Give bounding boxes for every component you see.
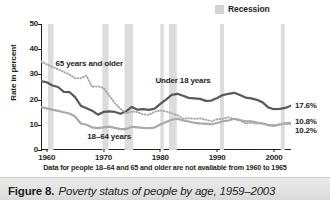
y-tickmark-20: [38, 100, 42, 101]
y-tick-10: 10: [18, 120, 38, 129]
series-lines: [41, 24, 291, 150]
figure-poverty-status-by-age: Recession Rate in percent 01020304050 19…: [0, 0, 330, 200]
y-tick-20: 20: [18, 95, 38, 104]
recession-band: [220, 24, 224, 150]
recession-band: [169, 24, 177, 150]
x-tickmark-1980: [160, 149, 161, 152]
series-line-2: [41, 107, 291, 129]
y-tickmark-0: [38, 150, 42, 151]
x-tickmark-1960: [46, 149, 47, 152]
annotation-2: Under 18 years: [155, 76, 210, 85]
caption-bar: Figure 8. Poverty status of people by ag…: [0, 177, 330, 200]
recession-swatch-icon: [215, 5, 224, 14]
legend-label-recession: Recession: [228, 4, 270, 14]
recession-band: [281, 24, 285, 150]
recession-band: [125, 24, 134, 150]
y-tickmark-50: [38, 24, 42, 25]
y-tick-40: 40: [18, 44, 38, 53]
annotation-3: 18–64 years: [87, 132, 131, 141]
footnote: Data for people 18–64 and 65 and older a…: [0, 163, 330, 172]
legend: Recession: [215, 4, 270, 14]
recession-band: [160, 24, 163, 150]
annotation-1: 65 years and older: [56, 59, 124, 68]
x-tickmark-2000: [273, 149, 274, 152]
recession-band: [102, 24, 108, 150]
y-tickmark-30: [38, 74, 42, 75]
end-value-2: 10.8%: [295, 117, 317, 126]
end-value-1: 17.6%: [295, 101, 317, 110]
x-tick-1990: 1990: [209, 153, 226, 162]
series-line-3: [41, 61, 291, 125]
y-tick-50: 50: [18, 19, 38, 28]
x-tick-1980: 1980: [152, 153, 169, 162]
y-tickmark-10: [38, 125, 42, 126]
chart-canvas: [41, 24, 291, 150]
x-tickmark-1990: [217, 149, 218, 152]
recession-band: [48, 24, 53, 150]
x-tickmark-1970: [103, 149, 104, 152]
y-axis-tick-labels: 01020304050: [14, 18, 38, 158]
y-tick-30: 30: [18, 69, 38, 78]
y-tickmark-40: [38, 49, 42, 50]
series-line-1: [41, 81, 291, 115]
end-value-3: 10.2%: [295, 126, 317, 135]
x-tick-1960: 1960: [38, 153, 55, 162]
x-tick-2000: 2000: [265, 153, 282, 162]
plot-area: Rate in percent 01020304050 196019701980…: [0, 18, 330, 158]
x-tick-1970: 1970: [95, 153, 112, 162]
caption-text: Figure 8. Poverty status of people by ag…: [0, 181, 275, 199]
caption-figure-number: Figure 8.: [8, 185, 54, 197]
caption-title: Poverty status of people by age, 1959–20…: [59, 185, 276, 197]
